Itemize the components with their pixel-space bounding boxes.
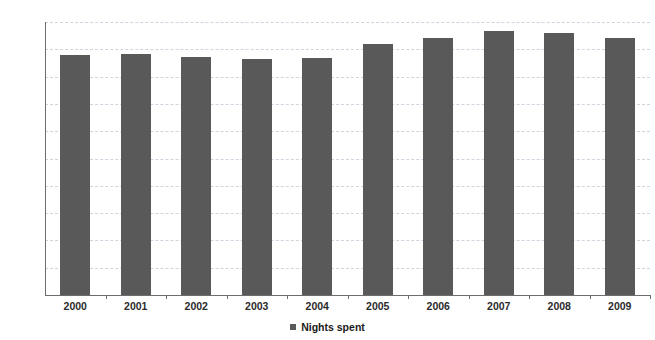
x-axis-tick-mark (590, 295, 591, 299)
y-axis-line (45, 22, 46, 296)
x-axis-tick-mark (106, 295, 107, 299)
legend-label-nights-spent: Nights spent (301, 321, 365, 333)
x-axis-tick-mark (529, 295, 530, 299)
x-axis-tick-label: 2000 (45, 300, 105, 312)
legend-swatch-nights-spent (290, 324, 296, 330)
bar-chart: 0200400600800100012001400160018002000 20… (0, 0, 655, 340)
chart-legend: Nights spent (0, 321, 655, 333)
x-axis-tick-mark (287, 295, 288, 299)
y-axis: 0200400600800100012001400160018002000 (45, 22, 650, 295)
x-axis-tick-mark (166, 295, 167, 299)
x-axis-tick-label: 2002 (166, 300, 226, 312)
chart-title (74, 0, 474, 6)
x-axis-tick-label: 2003 (227, 300, 287, 312)
x-axis-tick-label: 2007 (469, 300, 529, 312)
x-axis-tick-label: 2004 (287, 300, 347, 312)
x-axis-tick-mark (469, 295, 470, 299)
x-axis-tick-label: 2008 (529, 300, 589, 312)
x-axis-tick-label: 2001 (106, 300, 166, 312)
x-axis-tick-mark (348, 295, 349, 299)
x-axis-tick-mark (650, 295, 651, 299)
x-axis-tick-mark (227, 295, 228, 299)
x-axis-tick-label: 2009 (590, 300, 650, 312)
x-axis-tick-mark (408, 295, 409, 299)
x-axis-tick-label: 2006 (408, 300, 468, 312)
x-axis-tick-label: 2005 (348, 300, 408, 312)
